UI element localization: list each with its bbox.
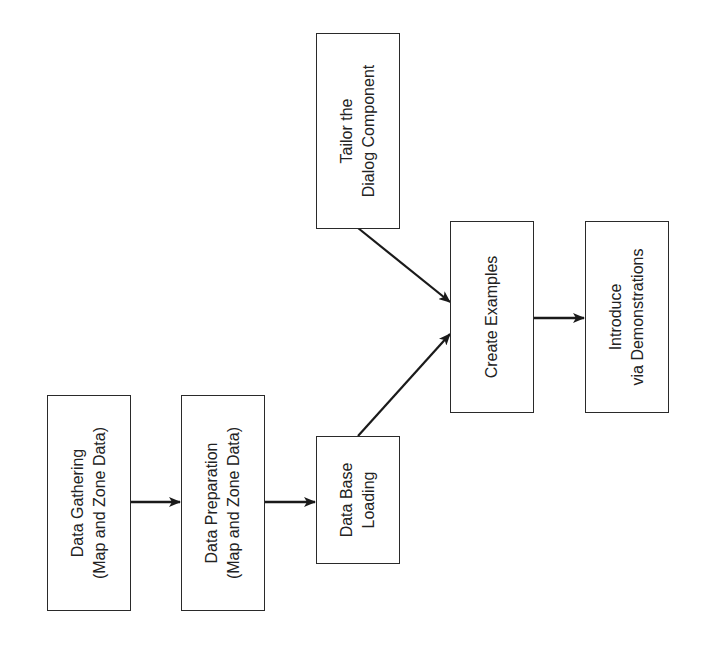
node-label-line: Create Examples (481, 256, 503, 379)
arrow-loading-to-examples (358, 334, 450, 436)
node-label: Introduce via Demonstrations (605, 249, 649, 386)
node-label-line: Tailor the (336, 65, 358, 198)
node-data-gathering: Data Gathering (Map and Zone Data) (47, 395, 131, 611)
node-label-line: Data Base (336, 463, 358, 538)
node-label-line: Loading (358, 463, 380, 538)
node-label: Tailor the Dialog Component (336, 65, 380, 198)
node-label-line: Introduce (605, 249, 627, 386)
node-label-line: via Demonstrations (627, 249, 649, 386)
node-label-line: Data Preparation (201, 427, 223, 579)
node-label: Data Gathering (Map and Zone Data) (67, 427, 111, 579)
node-label-line: (Map and Zone Data) (89, 427, 111, 579)
node-label-line: (Map and Zone Data) (223, 427, 245, 579)
node-tailor-dialog-component: Tailor the Dialog Component (316, 33, 400, 229)
node-introduce-demonstrations: Introduce via Demonstrations (585, 221, 669, 413)
node-label-line: Data Gathering (67, 427, 89, 579)
node-create-examples: Create Examples (450, 221, 534, 413)
node-label: Data Base Loading (336, 463, 380, 538)
node-data-base-loading: Data Base Loading (316, 436, 400, 564)
arrow-tailor-to-examples (358, 228, 450, 302)
node-label: Data Preparation (Map and Zone Data) (201, 427, 245, 579)
node-label-line: Dialog Component (358, 65, 380, 198)
node-data-preparation: Data Preparation (Map and Zone Data) (181, 395, 265, 611)
flowchart-diagram: Data Gathering (Map and Zone Data) Data … (0, 0, 716, 658)
node-label: Create Examples (481, 256, 503, 379)
